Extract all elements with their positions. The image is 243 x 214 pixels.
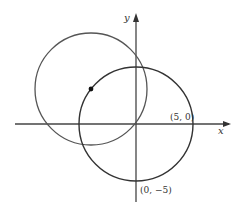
y-axis-arrow-icon [133,13,139,22]
diagram-canvas: y x (5, 0) (0, −5) [0,0,243,214]
center-dot [89,87,94,92]
point-label-0-neg5: (0, −5) [140,185,172,195]
x-axis-arrow-icon [223,121,231,127]
point-label-5-0: (5, 0) [170,112,194,122]
x-axis-label: x [218,125,224,136]
y-axis-label: y [123,12,130,23]
